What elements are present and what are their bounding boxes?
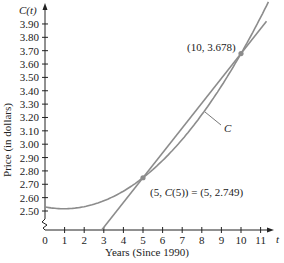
x-tick-label: 0	[42, 234, 48, 246]
curve-label-leader	[205, 112, 221, 125]
x-tick-label: 1	[62, 234, 68, 246]
axis-break-icon	[42, 216, 47, 230]
y-tick-label: 3.40	[20, 85, 40, 97]
y-axis-arrow-icon	[43, 3, 48, 10]
point-5-marker	[140, 175, 145, 180]
x-tick-label: 11	[255, 234, 266, 246]
x-tick-label: 3	[101, 234, 107, 246]
x-tick-label: 6	[160, 234, 166, 246]
y-axis-variable-label: C(t)	[19, 4, 37, 17]
y-tick-label: 3.20	[20, 111, 40, 123]
y-tick-label: 2.50	[20, 205, 40, 217]
x-tick-label: 10	[236, 234, 248, 246]
x-tick-label: 7	[179, 234, 185, 246]
y-tick-label: 2.60	[20, 192, 40, 204]
y-tick-label: 2.90	[20, 152, 40, 164]
x-tick-label: 2	[81, 234, 87, 246]
y-tick-label: 2.70	[20, 178, 40, 190]
y-tick-label: 3.90	[20, 18, 40, 30]
x-axis-arrow-icon	[267, 228, 274, 233]
y-axis-title: Price (in dollars)	[1, 103, 14, 177]
point-10-label: (10, 3.678)	[187, 41, 236, 54]
y-tick-label: 3.50	[20, 71, 40, 83]
y-tick-label: 3.70	[20, 45, 40, 57]
x-axis-title: Years (Since 1990)	[105, 246, 189, 259]
y-tick-label: 3.80	[20, 31, 40, 43]
y-tick-label: 3.30	[20, 98, 40, 110]
x-tick-label: 4	[121, 234, 127, 246]
price-curve-c	[45, 2, 268, 209]
x-axis-variable-label: t	[276, 233, 280, 245]
y-tick-label: 3.00	[20, 138, 40, 150]
y-tick-label: 3.60	[20, 58, 40, 70]
x-tick-label: 9	[219, 234, 225, 246]
chart: 2.502.602.702.802.903.003.103.203.303.40…	[0, 0, 284, 263]
x-tick-label: 5	[140, 234, 146, 246]
curve-name-label: C	[224, 122, 232, 134]
y-tick-label: 3.10	[20, 125, 40, 137]
x-tick-label: 8	[199, 234, 205, 246]
point-5-label: (5, C(5)) = (5, 2.749)	[150, 186, 244, 199]
point-10-marker	[238, 51, 243, 56]
y-tick-label: 2.80	[20, 165, 40, 177]
y-axis-ticks: 2.502.602.702.802.903.003.103.203.303.40…	[20, 18, 48, 217]
